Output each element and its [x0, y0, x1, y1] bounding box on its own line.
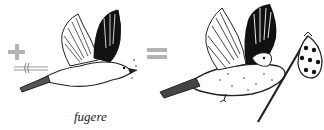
bird-with-bindle-icon: [160, 0, 324, 130]
rebus-illustration: fugere: [0, 0, 324, 130]
bird-flying-icon: [20, 8, 140, 93]
caption-label: fugere: [74, 109, 107, 125]
